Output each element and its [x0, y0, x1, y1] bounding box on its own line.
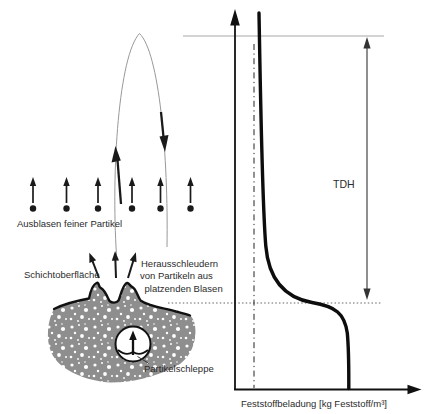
diagram-canvas: Ausblasen feiner Partikel Schichtoberflä…: [0, 0, 428, 414]
label-herausschleudern-line3: platzenden Blasen: [145, 283, 223, 294]
freeboard-illustration: Ausblasen feiner Partikel Schichtoberflä…: [17, 34, 223, 383]
fluidized-bed: Partikelschleppe: [48, 283, 214, 383]
x-axis: [234, 385, 421, 395]
ejection-arrow: [111, 251, 119, 278]
particle-with-arrow: [63, 177, 69, 212]
label-ausblasen-feiner-partikel: Ausblasen feiner Partikel: [17, 218, 122, 229]
fluidized-bed-tdh-diagram: Ausblasen feiner Partikel Schichtoberflä…: [0, 0, 428, 414]
particle-with-arrow: [129, 177, 135, 212]
solids-loading-curve: [259, 13, 349, 389]
label-herausschleudern-line2: von Partikeln aus: [140, 270, 213, 281]
label-partikelschleppe: Partikelschleppe: [144, 363, 214, 374]
particle-with-arrow: [187, 177, 193, 212]
label-schichtoberflaeche: Schichtoberfläche: [24, 269, 100, 280]
loading-profile-chart: TDH Feststoffbeladung [kg Feststoff/m³]: [168, 9, 422, 409]
tdh-span-arrow: [363, 37, 370, 300]
label-herausschleudern-line1: Herausschleudern: [141, 258, 218, 269]
trajectory-down-arrow: [160, 112, 169, 152]
fine-particles-row: [30, 177, 194, 212]
ejection-arrow: [125, 251, 140, 279]
label-herausschleudern: Herausschleudern von Partikeln aus platz…: [140, 258, 223, 294]
y-axis: [230, 9, 240, 390]
particle-with-arrow: [95, 177, 101, 212]
label-tdh: TDH: [333, 178, 355, 190]
x-axis-label: Feststoffbeladung [kg Feststoff/m³]: [241, 398, 387, 409]
particle-with-arrow: [157, 177, 163, 212]
trajectory-up-arrow: [112, 146, 122, 204]
particle-trajectory-arc: [115, 34, 167, 256]
particle-with-arrow: [30, 177, 36, 212]
